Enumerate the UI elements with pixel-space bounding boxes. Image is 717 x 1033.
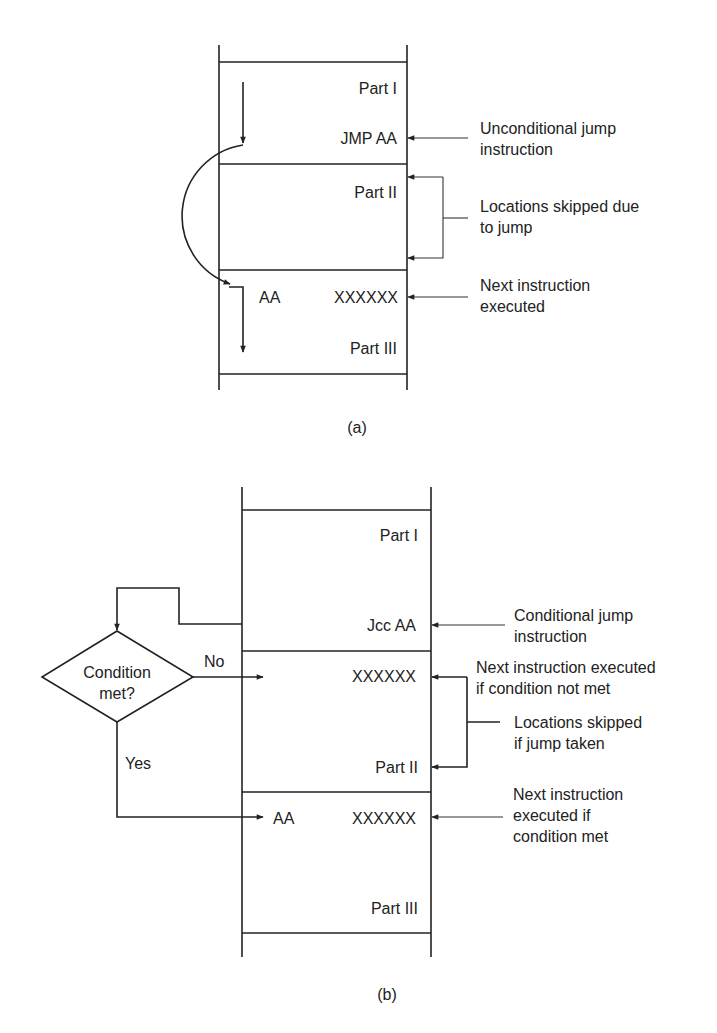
jump-instruction-figure: Part I JMP AA Part II AA XXXXXX Part III… — [0, 0, 717, 1033]
unconditional-jump-note-line1: Unconditional jump — [480, 120, 616, 137]
conditional-jump-note-line1: Conditional jump — [514, 607, 633, 624]
annotations-a: Unconditional jump instruction Locations… — [408, 120, 639, 315]
test-condition-arrow-icon — [117, 588, 242, 630]
fallthrough-instruction-label: XXXXXX — [352, 668, 416, 685]
part2-label: Part II — [375, 759, 418, 776]
decision-text-line1: Condition — [83, 664, 151, 681]
jmp-instruction-label: JMP AA — [340, 130, 397, 147]
execution-flow-a — [182, 82, 243, 352]
skipped-bracket-icon — [408, 177, 443, 258]
next-executed-note-line2: executed — [480, 298, 545, 315]
next-not-met-note-line2: if condition not met — [476, 680, 611, 697]
yes-branch-label: Yes — [125, 755, 151, 772]
next-met-note-line2: executed if — [513, 807, 591, 824]
decision-flow-b: Condition met? No Yes — [42, 588, 263, 817]
jcc-instruction-label: Jcc AA — [367, 617, 416, 634]
target-address-label: AA — [273, 810, 295, 827]
conditional-jump-note-line2: instruction — [514, 628, 587, 645]
no-branch-label: No — [204, 653, 225, 670]
decision-text-line2: met? — [99, 685, 135, 702]
next-not-met-note-line1: Next instruction executed — [476, 659, 656, 676]
part3-label: Part III — [350, 340, 397, 357]
next-met-note-line1: Next instruction — [513, 786, 623, 803]
skipped-bracket-icon — [432, 677, 467, 767]
part1-label: Part I — [380, 527, 418, 544]
target-instruction-label: XXXXXX — [334, 289, 398, 306]
continue-execution-arrow-icon — [229, 287, 243, 352]
figure-b-caption: (b) — [377, 986, 397, 1003]
unconditional-jump-note-line2: instruction — [480, 141, 553, 158]
skipped-note-line1: Locations skipped — [514, 714, 642, 731]
skipped-note-line2: to jump — [480, 219, 533, 236]
next-met-note-line3: condition met — [513, 828, 609, 845]
part1-label: Part I — [359, 80, 397, 97]
figure-a-unconditional-jump: Part I JMP AA Part II AA XXXXXX Part III… — [182, 45, 639, 436]
skipped-note-line2: if jump taken — [514, 735, 605, 752]
memory-column-b: Part I Jcc AA XXXXXX Part II AA XXXXXX P… — [242, 487, 431, 957]
jump-arc-arrow-icon — [182, 145, 243, 284]
next-executed-note-line1: Next instruction — [480, 277, 590, 294]
skipped-note-line1: Locations skipped due — [480, 198, 639, 215]
target-address-label: AA — [259, 289, 281, 306]
part2-label: Part II — [354, 184, 397, 201]
figure-b-conditional-jump: Part I Jcc AA XXXXXX Part II AA XXXXXX P… — [42, 487, 656, 1003]
memory-column-a: Part I JMP AA Part II AA XXXXXX Part III — [219, 45, 407, 390]
figure-a-caption: (a) — [347, 419, 367, 436]
part3-label: Part III — [371, 900, 418, 917]
annotations-b: Conditional jump instruction Next instru… — [432, 607, 656, 845]
target-instruction-label: XXXXXX — [352, 810, 416, 827]
